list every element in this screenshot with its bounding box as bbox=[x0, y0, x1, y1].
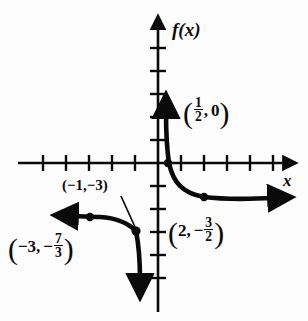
point-x-intercept bbox=[164, 159, 172, 167]
annotation-right-point: ( 2 , − 3 2 ) bbox=[168, 216, 224, 246]
close-paren: ) bbox=[214, 218, 224, 248]
y-axis-label: f(x) bbox=[172, 20, 200, 39]
fraction-seven-thirds: 7 3 bbox=[54, 232, 63, 261]
fraction-numerator: 1 bbox=[194, 96, 203, 110]
comma: , bbox=[204, 102, 211, 119]
annotation-x-intercept: ( 1 2 , 0 ) bbox=[183, 96, 229, 126]
fraction-denominator: 2 bbox=[194, 109, 203, 124]
coordinate-plane bbox=[0, 0, 308, 321]
point-neg-one-neg-three bbox=[131, 226, 140, 235]
fraction-numerator: 7 bbox=[54, 232, 63, 246]
y-axis bbox=[150, 26, 166, 312]
open-paren: ( bbox=[8, 234, 18, 264]
x-value: 2 bbox=[178, 222, 187, 239]
x-value: −3 bbox=[18, 238, 36, 255]
close-paren: ) bbox=[219, 98, 229, 128]
close-paren: ) bbox=[64, 234, 74, 264]
point-two-neg-three-halves bbox=[200, 193, 208, 201]
curve-right-upper bbox=[166, 112, 169, 163]
y-value: 0 bbox=[211, 102, 220, 119]
graph-figure: f(x) x ( 1 2 , 0 ) ( 2 , − 3 2 ) ( bbox=[0, 0, 308, 321]
open-paren: ( bbox=[168, 218, 178, 248]
annotation-left-point-lower: ( −3 , − 7 3 ) bbox=[8, 232, 74, 262]
curve-left-lower bbox=[136, 231, 140, 280]
curve-left-upper bbox=[72, 216, 136, 231]
comma: , bbox=[186, 222, 193, 239]
curve-right-lower bbox=[169, 163, 274, 199]
open-paren: ( bbox=[183, 98, 193, 128]
comma: , bbox=[36, 238, 43, 255]
x-axis bbox=[18, 155, 286, 171]
fraction-denominator: 3 bbox=[54, 245, 63, 260]
point-neg-three-neg-seven-thirds bbox=[86, 213, 94, 221]
fraction-three-halves: 3 2 bbox=[204, 216, 213, 245]
minus-sign: − bbox=[43, 238, 53, 255]
minus-sign: − bbox=[194, 222, 204, 239]
annotation-left-point-upper: (−1,−3) bbox=[62, 178, 108, 193]
fraction-denominator: 2 bbox=[204, 229, 213, 244]
x-axis-label: x bbox=[283, 172, 292, 189]
fraction-one-half: 1 2 bbox=[194, 96, 203, 125]
fraction-numerator: 3 bbox=[204, 216, 213, 230]
